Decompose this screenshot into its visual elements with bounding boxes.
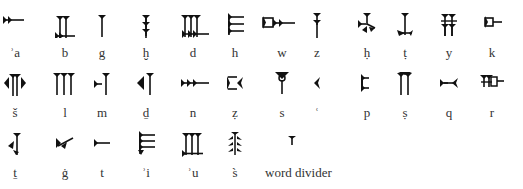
cuneiform-t-icon	[77, 128, 127, 158]
transliteration: k	[467, 46, 517, 60]
transliteration: ẓ	[210, 106, 260, 120]
cuneiform-r-icon	[467, 68, 517, 98]
transliteration: t	[77, 166, 127, 180]
transliteration: r	[467, 106, 517, 120]
transliteration: š	[0, 106, 40, 120]
transliteration: ʾi	[121, 166, 171, 180]
transliteration: word divider	[265, 166, 385, 180]
cuneiform-s2-icon	[210, 128, 260, 158]
cuneiform-z-icon	[292, 8, 342, 38]
cuneiform-h-icon	[210, 8, 260, 38]
transliteration: s̀	[210, 166, 260, 180]
cuneiform-ayin-icon	[292, 68, 342, 98]
cuneiform-i-icon	[121, 128, 171, 158]
transliteration: ṭ	[380, 46, 430, 60]
cuneiform-th-icon	[0, 128, 40, 158]
transliteration: z	[292, 46, 342, 60]
transliteration: g	[77, 46, 127, 60]
transliteration: ʿ	[292, 106, 342, 120]
transliteration: m	[77, 106, 127, 120]
transliteration: h	[210, 46, 260, 60]
transliteration: ḫ	[121, 46, 171, 60]
cuneiform-k-icon	[467, 8, 517, 38]
cuneiform-kh-icon	[121, 8, 171, 38]
cuneiform-zz-icon	[210, 68, 260, 98]
transliteration: ṣ	[380, 106, 430, 120]
transliteration: ḏ	[121, 106, 171, 120]
cuneiform-g-icon	[77, 8, 127, 38]
cuneiform-tt-icon	[380, 8, 430, 38]
transliteration: ʾa	[0, 46, 40, 60]
cuneiform-word-divider-icon	[267, 128, 317, 158]
cuneiform-sh-icon	[0, 68, 40, 98]
cuneiform-ss-icon	[380, 68, 430, 98]
cuneiform-a-icon	[0, 8, 40, 38]
cuneiform-dh-icon	[121, 68, 171, 98]
cuneiform-m-icon	[77, 68, 127, 98]
transliteration: ṯ	[0, 166, 40, 180]
